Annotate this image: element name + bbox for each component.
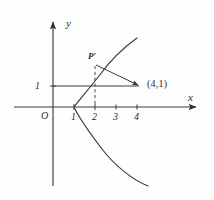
figure-canvas xyxy=(0,0,214,200)
x-tick-label-1: 1 xyxy=(71,112,76,122)
x-axis-label: x xyxy=(188,92,193,103)
x-tick-label-2: 2 xyxy=(92,112,97,122)
x-tick-label-4: 4 xyxy=(134,112,139,122)
y-axis-label: y xyxy=(66,18,71,29)
x-tick-label-3: 3 xyxy=(113,112,118,122)
segment-p-to-target xyxy=(96,65,138,85)
y-tick-label-1: 1 xyxy=(35,81,40,91)
origin-label: O xyxy=(41,111,48,121)
point-p-label: P′ xyxy=(88,52,96,61)
parabola-figure: y x O 1 2 3 4 1 P′ (4,1) xyxy=(0,0,214,200)
target-point-label: (4,1) xyxy=(147,79,167,89)
